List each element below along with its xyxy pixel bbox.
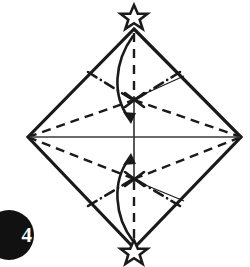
origami-figure-svg	[0, 0, 250, 267]
origami-diagram: 4	[0, 0, 250, 267]
